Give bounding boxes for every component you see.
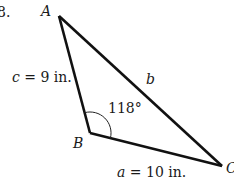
problem-number: 8. (0, 4, 10, 20)
side-a-label: a = 10 in. (117, 164, 186, 180)
angle-b-label: 118° (108, 100, 142, 116)
triangle-diagram: 8. A B C c = 9 in. b a = 10 in. 118° (0, 0, 234, 183)
vertex-a-label: A (39, 3, 51, 19)
side-b-label: b (146, 71, 155, 87)
vertex-c-label: C (226, 160, 234, 176)
side-c-value: = 9 in. (20, 69, 72, 85)
side-a-value: = 10 in. (125, 164, 186, 180)
vertex-b-label: B (72, 135, 83, 151)
side-b (59, 16, 222, 166)
triangle (59, 16, 222, 166)
side-c-label: c = 9 in. (12, 69, 72, 85)
